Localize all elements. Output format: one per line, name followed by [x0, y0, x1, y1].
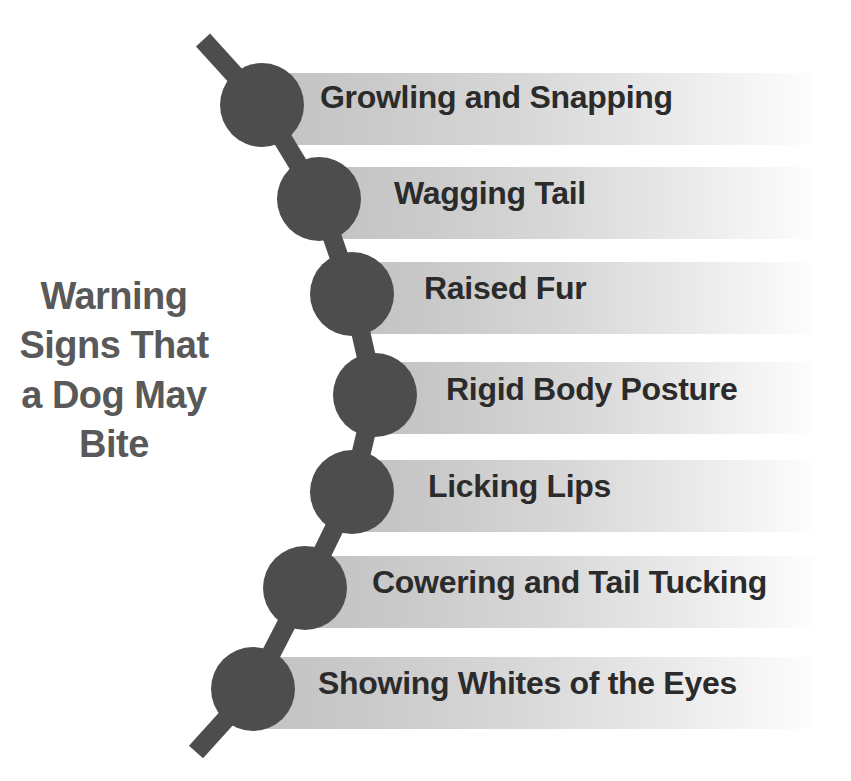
row-label-7: Showing Whites of the Eyes [318, 667, 737, 699]
chain-node-7 [211, 647, 295, 731]
page-title: Warning Signs That a Dog May Bite [8, 272, 220, 470]
row-label-5: Licking Lips [428, 470, 611, 502]
chain-node-1 [220, 63, 304, 147]
chain-node-5 [310, 450, 394, 534]
chain-node-2 [277, 157, 361, 241]
chain-node-group [211, 63, 417, 731]
chain-node-6 [263, 546, 347, 630]
page-title-line-1: Warning [8, 272, 220, 321]
page-title-line-2: Signs That [8, 321, 220, 370]
page-title-line-3: a Dog May [8, 371, 220, 420]
chain-node-3 [310, 252, 394, 336]
row-label-1: Growling and Snapping [320, 81, 673, 113]
infographic-root: Growling and Snapping Wagging Tail Raise… [0, 0, 851, 781]
row-label-4: Rigid Body Posture [446, 373, 738, 405]
chain-node-4 [333, 353, 417, 437]
row-label-2: Wagging Tail [394, 177, 586, 209]
row-label-6: Cowering and Tail Tucking [372, 566, 767, 598]
row-label-3: Raised Fur [424, 272, 586, 304]
page-title-line-4: Bite [8, 420, 220, 469]
